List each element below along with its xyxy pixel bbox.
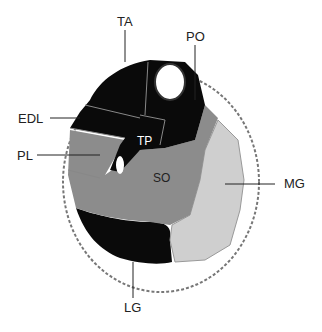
label-ta: TA xyxy=(117,15,133,28)
label-tp: TP xyxy=(137,135,152,147)
label-so: SO xyxy=(153,172,170,184)
tibia-bone xyxy=(155,64,185,100)
label-edl: EDL xyxy=(18,112,43,125)
label-lg: LG xyxy=(124,301,141,314)
label-mg: MG xyxy=(284,177,305,190)
label-po: PO xyxy=(186,30,205,43)
fibula-bone xyxy=(116,156,124,174)
label-pl: PL xyxy=(17,149,33,162)
leg-cross-section-diagram xyxy=(0,0,322,332)
